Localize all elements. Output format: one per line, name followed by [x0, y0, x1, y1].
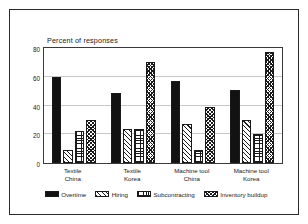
bar-overtime-2 — [171, 81, 181, 163]
bar-subcontracting-0 — [75, 131, 85, 163]
bar-group-1 — [104, 48, 164, 163]
y-axis-labels: 020406080 — [27, 47, 40, 164]
x-category-line1: Machine tool — [174, 167, 209, 174]
bar-group-3 — [223, 48, 283, 163]
bar-overtime-3 — [230, 90, 240, 163]
chart-figure: Percent of responses 020406080 TextileCh… — [0, 0, 308, 224]
legend-swatch-grid-icon — [137, 191, 151, 198]
legend-swatch-diagonal-icon — [95, 191, 109, 198]
legend-label: Hiring — [112, 191, 128, 198]
legend-swatch-solid-icon — [45, 191, 59, 198]
bar-hiring-1 — [123, 129, 133, 164]
bar-inventory-buildup-3 — [265, 52, 275, 163]
x-category-line1: Textile — [64, 167, 82, 174]
x-category-label-2: Machine toolChina — [162, 167, 222, 182]
bar-group-0 — [44, 48, 104, 163]
chart-legend: OvertimeHiringSubcontractingInventory bu… — [20, 188, 292, 200]
x-category-line2: China — [43, 175, 103, 183]
bar-hiring-3 — [242, 120, 252, 163]
bar-inventory-buildup-1 — [146, 62, 156, 163]
x-category-line2: Korea — [103, 175, 163, 183]
legend-swatch-crosshatch-icon — [204, 191, 218, 198]
bar-subcontracting-1 — [134, 129, 144, 164]
legend-label: Subcontracting — [153, 191, 194, 198]
bar-hiring-2 — [182, 124, 192, 163]
x-category-label-0: TextileChina — [43, 167, 103, 182]
legend-entry-overtime[interactable]: Overtime — [45, 191, 87, 198]
bar-overtime-0 — [52, 77, 62, 163]
bar-subcontracting-3 — [253, 134, 263, 163]
x-axis-category-labels: TextileChinaTextileKoreaMachine toolChin… — [43, 167, 283, 187]
y-tick-label-0: 0 — [36, 161, 40, 168]
x-category-label-1: TextileKorea — [103, 167, 163, 182]
legend-label: Inventory buildup — [220, 191, 267, 198]
x-category-line1: Textile — [123, 167, 141, 174]
x-category-line2: Korea — [222, 175, 282, 183]
bar-subcontracting-2 — [194, 150, 204, 163]
y-tick-label-80: 80 — [33, 46, 40, 53]
y-tick-label-60: 60 — [33, 74, 40, 81]
bar-group-2 — [163, 48, 223, 163]
bar-hiring-0 — [63, 150, 73, 163]
bar-overtime-1 — [111, 93, 121, 163]
legend-entry-subcontracting[interactable]: Subcontracting — [137, 191, 195, 198]
bar-inventory-buildup-0 — [86, 120, 96, 163]
legend-entry-hiring[interactable]: Hiring — [95, 191, 128, 198]
chart-title: Percent of responses — [47, 36, 118, 45]
y-tick-label-20: 20 — [33, 132, 40, 139]
x-category-label-3: Machine toolKorea — [222, 167, 282, 182]
y-tick-label-40: 40 — [33, 103, 40, 110]
plot-area — [43, 47, 283, 164]
x-category-line1: Machine tool — [234, 167, 269, 174]
legend-label: Overtime — [61, 191, 86, 198]
x-category-line2: China — [162, 175, 222, 183]
legend-entry-inventory-buildup[interactable]: Inventory buildup — [204, 191, 268, 198]
bar-inventory-buildup-2 — [205, 107, 215, 163]
